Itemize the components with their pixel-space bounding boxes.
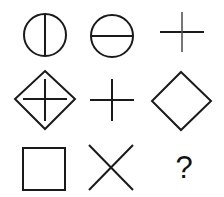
cell-r2c1-diamond-with-plus-icon <box>15 71 75 129</box>
cell-r3c2-x-cross-icon <box>89 145 133 190</box>
cell-r2c2-plus-icon <box>90 79 134 121</box>
figure-matrix-puzzle: ? <box>0 0 224 197</box>
cell-r1c2-circle-horizontal-line-icon <box>91 15 133 57</box>
cell-r3c1-square-icon <box>23 148 65 190</box>
cell-r1c3-plus-icon <box>160 12 204 52</box>
cell-r1c1-circle-vertical-line-icon <box>24 14 66 56</box>
cell-r2c3-diamond-icon <box>152 72 211 130</box>
cell-r3c3-question-mark: ? <box>172 150 196 186</box>
